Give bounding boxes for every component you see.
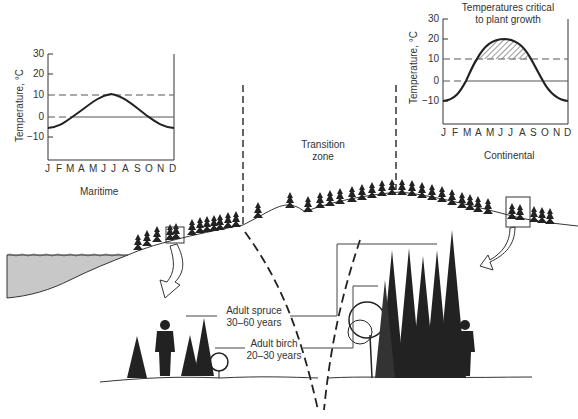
month-label: J — [441, 128, 446, 138]
maritime-caption: Maritime — [80, 186, 118, 198]
arrow-to-maritime-forest — [160, 244, 183, 298]
continental-ytick: 30 — [415, 14, 439, 24]
title-line: Temperatures critical — [458, 2, 558, 14]
transition-zone-label: Transition zone — [298, 139, 348, 163]
month-label: M — [66, 164, 74, 174]
continental-chart — [443, 19, 568, 124]
month-label: J — [45, 164, 50, 174]
month-label: O — [541, 128, 549, 138]
month-label: J — [111, 164, 116, 174]
water-body — [7, 255, 128, 298]
maritime-ytick: 20 — [20, 69, 44, 79]
continental-caption: Continental — [484, 150, 535, 162]
month-label: A — [475, 128, 482, 138]
continental-forest — [348, 230, 466, 378]
month-label: A — [78, 164, 85, 174]
maritime-ytick: −10 — [20, 132, 44, 142]
label-line: 20–30 years — [243, 350, 305, 362]
month-label: A — [519, 128, 526, 138]
maritime-ytick: 10 — [20, 90, 44, 100]
month-label: N — [157, 164, 164, 174]
continental-chart-title: Temperatures critical to plant growth — [458, 2, 558, 26]
continental-ytick: 20 — [415, 34, 439, 44]
maritime-ytick: 30 — [20, 49, 44, 59]
transition-funnel-right — [324, 240, 360, 410]
maritime-ytick: 0 — [20, 112, 44, 122]
month-label: O — [145, 164, 153, 174]
label-line: Adult spruce — [218, 305, 290, 317]
month-label: D — [169, 164, 176, 174]
month-label: J — [498, 128, 503, 138]
label-line: 30–60 years — [218, 317, 290, 329]
maritime-chart — [48, 54, 174, 160]
month-label: N — [553, 128, 560, 138]
title-line: to plant growth — [458, 14, 558, 26]
month-label: D — [564, 128, 571, 138]
label-line: Transition — [298, 139, 348, 151]
continental-ytick: −10 — [415, 96, 439, 106]
person-maritime — [155, 320, 175, 376]
month-label: M — [463, 128, 471, 138]
month-label: S — [134, 164, 141, 174]
month-label: A — [122, 164, 129, 174]
continental-ytick: 0 — [415, 76, 439, 86]
month-label: M — [486, 128, 494, 138]
month-label: J — [508, 128, 513, 138]
label-line: Adult birch — [243, 338, 305, 350]
month-label: S — [530, 128, 537, 138]
label-line: zone — [298, 151, 348, 163]
arrow-to-continental-forest — [480, 227, 515, 270]
month-label: F — [56, 164, 62, 174]
maritime-forest — [127, 318, 228, 378]
ridge-trees — [133, 179, 555, 250]
month-label: F — [452, 128, 458, 138]
continental-ytick: 10 — [415, 54, 439, 64]
adult-spruce-label: Adult spruce 30–60 years — [218, 305, 290, 329]
adult-birch-label: Adult birch 20–30 years — [243, 338, 305, 362]
month-label: M — [89, 164, 97, 174]
month-label: J — [101, 164, 106, 174]
